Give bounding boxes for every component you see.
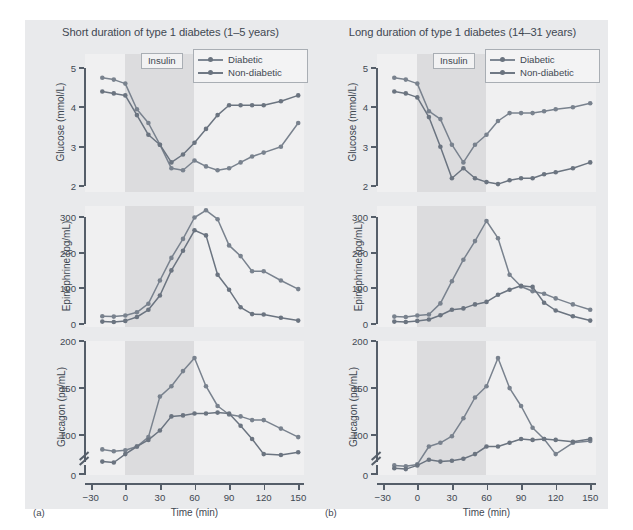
series-line: [102, 413, 298, 463]
panel-a-glucagon-plotarea: 0100150200: [85, 341, 304, 475]
legend-entry-non-diabetic: Non-diabetic: [198, 66, 302, 79]
data-point: [261, 150, 266, 155]
data-point: [261, 452, 266, 457]
data-point: [588, 437, 593, 442]
data-point: [461, 457, 466, 462]
panel-a-epinephrine-ylabel: Epinephrine (pg/mL): [61, 220, 72, 311]
data-point: [112, 320, 117, 325]
data-point: [553, 308, 558, 313]
data-point: [181, 413, 186, 418]
data-point: [192, 411, 197, 416]
legend-label-non-diabetic: Non-diabetic: [228, 67, 282, 78]
panel-b-xaxis: Time (min) −300306090120150: [377, 483, 596, 484]
y-tick-label: 4: [328, 102, 368, 113]
data-point: [571, 105, 576, 110]
data-point: [571, 166, 576, 171]
y-tick: [371, 287, 376, 289]
data-point: [507, 386, 512, 391]
data-point: [438, 301, 443, 306]
x-tick-label: 150: [290, 492, 306, 503]
data-point: [461, 306, 466, 311]
series-line: [394, 286, 590, 322]
y-tick-label: 3: [328, 141, 368, 152]
data-point: [181, 369, 186, 374]
data-point: [100, 447, 105, 452]
data-point: [530, 111, 535, 116]
data-point: [123, 452, 128, 457]
series-line: [102, 210, 298, 316]
panel-a-xaxis: Time (min) −300306090120150: [85, 483, 304, 484]
x-tick-label: 60: [189, 492, 200, 503]
data-point: [112, 77, 117, 82]
data-point: [204, 164, 209, 169]
y-tick: [79, 67, 84, 69]
data-point: [238, 414, 243, 419]
data-point: [135, 315, 140, 320]
y-tick: [371, 106, 376, 108]
data-point: [296, 450, 301, 455]
legend-marker-diabetic-icon: [198, 55, 223, 64]
data-point: [135, 310, 140, 315]
data-point: [427, 444, 432, 449]
x-tick-label: 150: [582, 492, 598, 503]
panel-a-title: Short duration of type 1 diabetes (1–5 y…: [25, 26, 316, 38]
legend-entry-diabetic: Diabetic: [198, 53, 302, 66]
y-tick: [371, 434, 376, 436]
data-point: [169, 256, 174, 261]
data-point: [227, 288, 232, 293]
data-point: [473, 395, 478, 400]
data-point: [427, 457, 432, 462]
data-point: [392, 319, 397, 324]
data-point: [146, 301, 151, 306]
data-point: [279, 426, 284, 431]
data-point: [169, 384, 174, 389]
y-tick-label: 5: [36, 62, 76, 73]
y-tick-label: 4: [36, 102, 76, 113]
panel-a-epinephrine-chart: Epinephrine (pg/mL) 0100200300: [25, 198, 316, 333]
data-point: [507, 288, 512, 293]
data-point: [588, 308, 593, 313]
data-point: [404, 315, 409, 320]
data-point: [392, 466, 397, 471]
data-point: [204, 127, 209, 132]
data-point: [181, 152, 186, 157]
data-point: [169, 166, 174, 171]
series-layer: [85, 206, 304, 327]
panel-b: Long duration of type 1 diabetes (14–31 …: [317, 20, 608, 509]
data-point: [415, 463, 420, 468]
data-point: [100, 314, 105, 319]
data-point: [571, 302, 576, 307]
y-tick-label: 3: [36, 141, 76, 152]
data-point: [404, 91, 409, 96]
data-point: [484, 180, 489, 185]
data-point: [158, 142, 163, 147]
data-point: [192, 158, 197, 163]
data-point: [158, 428, 163, 433]
data-point: [438, 459, 443, 464]
data-point: [473, 239, 478, 244]
data-point: [438, 441, 443, 446]
data-point: [438, 313, 443, 318]
legend-label-non-diabetic: Non-diabetic: [520, 67, 574, 78]
data-point: [519, 176, 524, 181]
data-point: [123, 319, 128, 324]
panel-a: Short duration of type 1 diabetes (1–5 y…: [25, 20, 316, 509]
series-layer: [377, 341, 596, 475]
data-point: [404, 77, 409, 82]
panel-b-epinephrine-ylabel: Epinephrine (pg/mL): [353, 220, 364, 311]
data-point: [100, 459, 105, 464]
data-point: [296, 435, 301, 440]
data-point: [438, 144, 443, 149]
data-point: [261, 312, 266, 317]
series-layer: [85, 341, 304, 475]
y-tick: [79, 146, 84, 148]
data-point: [204, 411, 209, 416]
data-point: [146, 308, 151, 313]
data-point: [415, 319, 420, 324]
data-point: [473, 176, 478, 181]
data-point: [181, 237, 186, 242]
data-point: [250, 154, 255, 159]
data-point: [461, 160, 466, 165]
data-point: [507, 178, 512, 183]
data-point: [484, 133, 489, 138]
